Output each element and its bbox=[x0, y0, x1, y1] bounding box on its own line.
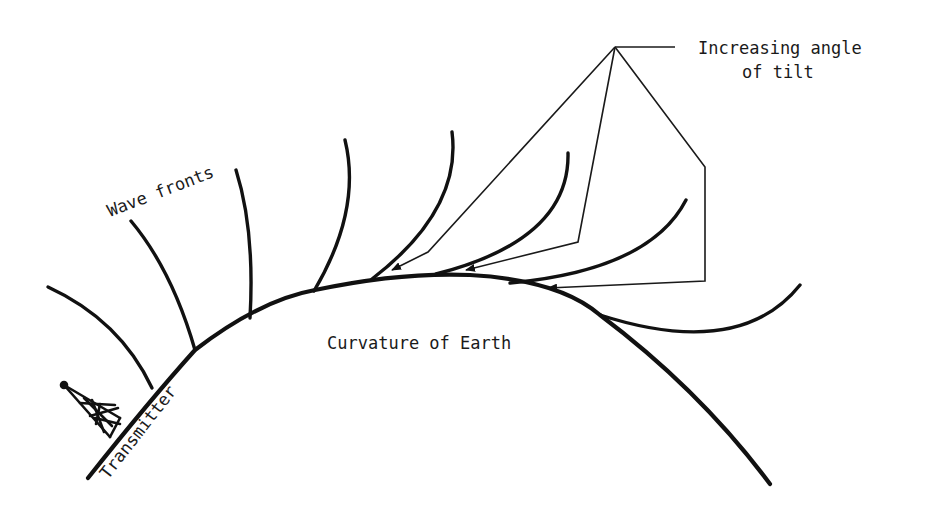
wave-front-5 bbox=[372, 132, 453, 279]
wave-front-1 bbox=[48, 287, 152, 388]
wave-fronts-label: Wave fronts bbox=[104, 162, 216, 221]
earth-curvature-arc bbox=[88, 275, 770, 484]
wave-front-4 bbox=[314, 140, 349, 291]
tilt-label-line2: of tilt bbox=[742, 62, 814, 82]
wave-front-8 bbox=[600, 285, 800, 332]
tilt-label-line1: Increasing angle bbox=[698, 38, 862, 58]
wave-front-7 bbox=[510, 200, 686, 283]
leader-arrow-2 bbox=[466, 47, 615, 270]
transmitter-label: Transmitter bbox=[95, 381, 180, 482]
diagram-canvas: Wave fronts Curvature of Earth Transmitt… bbox=[0, 0, 935, 532]
leader-arrow-3 bbox=[548, 47, 705, 288]
leader-arrow-1 bbox=[392, 47, 615, 270]
transmitter-tower-icon bbox=[61, 382, 120, 437]
wave-front-2 bbox=[131, 221, 195, 350]
wave-front-3 bbox=[236, 170, 251, 318]
curvature-of-earth-label: Curvature of Earth bbox=[327, 333, 511, 353]
